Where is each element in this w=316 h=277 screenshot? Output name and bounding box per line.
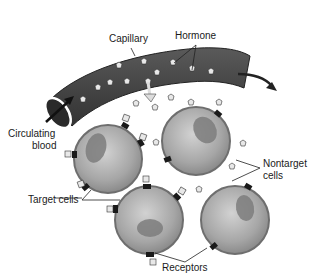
cell-bottom-left (115, 186, 183, 254)
cell-top-left (74, 125, 142, 193)
label-target-cells: Target cells (28, 194, 79, 205)
label-hormone: Hormone (175, 30, 216, 41)
label-nontarget-cells-1: Nontarget (263, 158, 307, 169)
label-nontarget-cells-2: cells (263, 170, 283, 181)
hormone-diagram: Capillary Hormone Circulating blood Nont… (0, 0, 316, 277)
cell-bottom-right (201, 186, 269, 254)
label-receptors: Receptors (162, 262, 208, 273)
label-circulating-blood-2: blood (32, 140, 56, 151)
capillary (40, 48, 277, 133)
label-capillary: Capillary (109, 33, 148, 44)
cell-top-right (162, 107, 230, 175)
label-circulating-blood-1: Circulating (8, 128, 55, 139)
nucleus (137, 219, 163, 237)
